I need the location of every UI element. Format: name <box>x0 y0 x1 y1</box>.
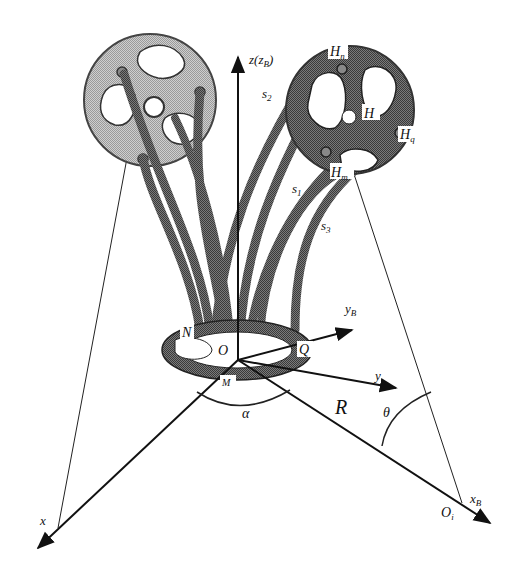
label-O: O <box>218 343 228 358</box>
x-axis <box>38 360 238 548</box>
label-xB: xB <box>469 491 482 508</box>
label-R: R <box>334 396 347 418</box>
label-H: H <box>363 106 375 121</box>
right-end-disc <box>286 46 414 174</box>
label-Q: Q <box>299 342 309 357</box>
xB-axis <box>238 360 490 523</box>
projection-line-left <box>58 158 127 528</box>
label-z-axis: z(zB) <box>248 52 273 69</box>
label-s2: s2 <box>262 86 272 103</box>
label-s3: s3 <box>321 218 331 235</box>
label-y: y <box>373 368 381 383</box>
label-alpha: α <box>242 406 250 421</box>
projection-line-right <box>352 168 462 503</box>
robot-kinematic-diagram: z(zB) s2 s1 s3 Hn H Hq Hm yB y N O Q M α… <box>0 0 523 578</box>
label-x: x <box>39 513 46 528</box>
label-N: N <box>181 325 192 340</box>
label-yB: yB <box>343 301 357 318</box>
label-Oi: Oi <box>441 505 454 522</box>
label-theta: θ <box>383 405 390 420</box>
label-M: M <box>221 377 231 388</box>
alpha-arc <box>197 390 290 406</box>
label-s1: s1 <box>292 181 302 198</box>
